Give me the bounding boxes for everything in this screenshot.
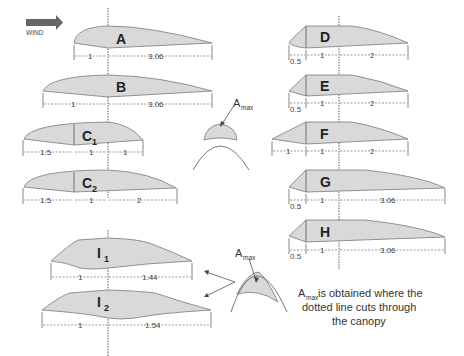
- wind-arrow-icon: [26, 15, 63, 30]
- svg-text:3.06: 3.06: [148, 52, 164, 61]
- svg-text:C: C: [82, 175, 92, 191]
- svg-text:2: 2: [370, 99, 375, 108]
- svg-text:0.5: 0.5: [290, 202, 302, 211]
- canopy-i1: I 1 1 1.44: [51, 238, 192, 282]
- svg-text:1: 1: [286, 147, 291, 156]
- canopy-shapes-diagram: WIND A 1 3.06 B 1 3.06 C 1 1.5 1 1 C 2: [0, 0, 464, 356]
- svg-text:the canopy: the canopy: [332, 315, 386, 327]
- svg-text:I: I: [97, 294, 101, 310]
- svg-text:F: F: [320, 126, 329, 142]
- svg-text:0.5: 0.5: [290, 57, 302, 66]
- svg-text:2: 2: [370, 147, 375, 156]
- amax-cross-section-round: A max: [193, 97, 254, 170]
- svg-text:1: 1: [78, 273, 83, 282]
- svg-text:E: E: [320, 78, 329, 94]
- canopy-d: D 0.5 1 2: [289, 26, 408, 66]
- svg-text:max: max: [243, 254, 256, 261]
- svg-text:2: 2: [92, 184, 97, 194]
- svg-text:2: 2: [137, 196, 142, 205]
- svg-text:A: A: [235, 247, 243, 259]
- pointer-arrows: [204, 270, 235, 297]
- svg-text:1: 1: [92, 137, 97, 147]
- svg-text:1.54: 1.54: [145, 321, 161, 330]
- svg-text:1: 1: [71, 100, 76, 109]
- svg-text:2: 2: [104, 303, 109, 313]
- svg-text:1: 1: [320, 196, 325, 205]
- svg-text:1: 1: [320, 99, 325, 108]
- svg-text:0.5: 0.5: [290, 105, 302, 114]
- canopy-i2: I 2 1 1.54: [42, 290, 211, 330]
- note-amax-label: A: [298, 287, 306, 299]
- svg-text:1: 1: [320, 147, 325, 156]
- canopy-b: B 1 3.06: [43, 75, 212, 109]
- svg-text:1: 1: [320, 246, 325, 255]
- svg-text:0.5: 0.5: [290, 252, 302, 261]
- wind-label: WIND: [26, 29, 44, 36]
- svg-text:dotted line cuts through: dotted line cuts through: [302, 301, 416, 313]
- amax-cross-section-peaked: A max: [231, 247, 287, 312]
- svg-text:1: 1: [78, 321, 83, 330]
- svg-text:A: A: [116, 31, 126, 47]
- svg-text:1: 1: [104, 254, 109, 264]
- canopy-f: F 1 1 2: [272, 122, 408, 156]
- canopy-a: A 1 3.06: [74, 26, 212, 61]
- svg-text:is obtained where the: is obtained where the: [318, 287, 423, 299]
- svg-text:3.06: 3.06: [380, 196, 396, 205]
- svg-text:1: 1: [123, 148, 128, 157]
- svg-text:1: 1: [89, 148, 94, 157]
- amax-note: A max is obtained where the dotted line …: [298, 287, 423, 327]
- svg-text:1: 1: [88, 52, 93, 61]
- canopy-e: E 0.5 1 2: [289, 75, 408, 114]
- svg-text:B: B: [116, 79, 126, 95]
- svg-text:1.5: 1.5: [40, 196, 52, 205]
- svg-text:3.06: 3.06: [380, 246, 396, 255]
- svg-text:H: H: [320, 224, 330, 240]
- svg-text:1: 1: [89, 196, 94, 205]
- canopy-c1: C 1 1.5 1 1: [23, 122, 143, 157]
- svg-text:3.06: 3.06: [148, 100, 164, 109]
- svg-text:C: C: [82, 128, 92, 144]
- canopy-h: H 0.5 1 3.06: [289, 220, 445, 261]
- svg-text:D: D: [320, 29, 330, 45]
- svg-text:A: A: [233, 97, 241, 109]
- svg-text:1: 1: [320, 51, 325, 60]
- svg-text:1.5: 1.5: [40, 148, 52, 157]
- svg-text:2: 2: [370, 51, 375, 60]
- svg-text:1.44: 1.44: [142, 273, 158, 282]
- svg-text:I: I: [97, 245, 101, 261]
- svg-text:max: max: [241, 104, 254, 111]
- canopy-g: G 0.5 1 3.06: [289, 170, 445, 211]
- canopy-c2: C 2 1.5 1 2: [23, 170, 177, 205]
- svg-text:G: G: [320, 174, 331, 190]
